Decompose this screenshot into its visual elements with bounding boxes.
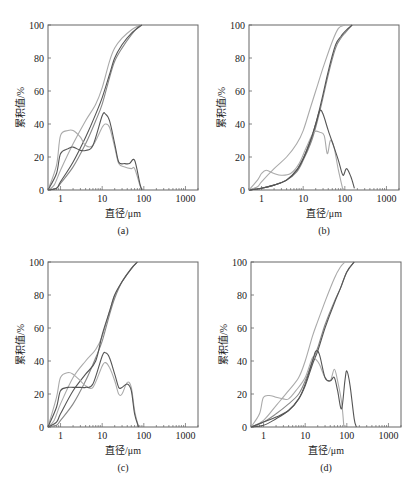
series-line-cumulative-dark bbox=[251, 262, 354, 427]
panel-caption: (a) bbox=[117, 225, 128, 237]
series-line-cumulative-mid bbox=[251, 262, 354, 427]
y-tick-label: 100 bbox=[29, 257, 44, 268]
y-tick-label: 60 bbox=[235, 86, 245, 97]
x-tick-label: 1 bbox=[58, 430, 63, 441]
y-tick-label: 40 bbox=[235, 119, 245, 130]
plot-frame bbox=[251, 262, 401, 427]
chart-panel-c: 0204060801001101001000直径/μm累积值/%(c) bbox=[0, 237, 207, 482]
chart-svg: 0204060801001101001000直径/μm累积值/%(a) bbox=[0, 0, 207, 245]
y-tick-label: 80 bbox=[237, 290, 247, 301]
series-line-frequency-light bbox=[251, 357, 344, 427]
y-tick-label: 0 bbox=[242, 422, 247, 433]
y-axis-title: 累积值/% bbox=[215, 87, 227, 128]
x-tick-label: 1 bbox=[259, 193, 264, 204]
y-tick-label: 100 bbox=[232, 257, 247, 268]
y-tick-label: 0 bbox=[39, 185, 44, 196]
x-tick-label: 10 bbox=[97, 193, 107, 204]
x-tick-label: 100 bbox=[136, 193, 151, 204]
x-tick-label: 1000 bbox=[378, 430, 398, 441]
chart-svg: 0204060801001101001000直径/μm累积值/%(b) bbox=[201, 0, 408, 245]
y-tick-label: 80 bbox=[34, 290, 44, 301]
y-tick-label: 80 bbox=[34, 53, 44, 64]
series-line-cumulative-light bbox=[249, 25, 345, 190]
x-axis-title: 直径/μm bbox=[306, 207, 342, 219]
y-tick-label: 60 bbox=[34, 323, 44, 334]
x-axis-title: 直径/μm bbox=[105, 207, 141, 219]
y-tick-label: 100 bbox=[230, 20, 245, 31]
chart-panel-a: 0204060801001101001000直径/μm累积值/%(a) bbox=[0, 0, 207, 245]
y-tick-label: 20 bbox=[34, 389, 44, 400]
chart-svg: 0204060801001101001000直径/μm累积值/%(d) bbox=[203, 237, 410, 482]
y-axis-title: 累积值/% bbox=[14, 324, 26, 365]
series-line-frequency-light bbox=[249, 131, 343, 190]
x-tick-label: 1000 bbox=[376, 193, 396, 204]
panel-caption: (b) bbox=[318, 225, 330, 237]
series-line-cumulative-dark bbox=[48, 25, 142, 190]
chart-panel-d: 0204060801001101001000直径/μm累积值/%(d) bbox=[203, 237, 410, 482]
chart-svg: 0204060801001101001000直径/μm累积值/%(c) bbox=[0, 237, 207, 482]
series-line-cumulative-light bbox=[48, 262, 137, 427]
y-tick-label: 20 bbox=[34, 152, 44, 163]
x-tick-label: 100 bbox=[337, 193, 352, 204]
series-line-cumulative-light bbox=[251, 262, 345, 427]
series-line-cumulative-light bbox=[48, 25, 140, 190]
plot-frame bbox=[249, 25, 399, 190]
x-tick-label: 1000 bbox=[175, 430, 195, 441]
y-tick-label: 20 bbox=[235, 152, 245, 163]
series-line-frequency-light bbox=[48, 362, 139, 427]
panel-caption: (d) bbox=[320, 462, 332, 474]
y-tick-label: 40 bbox=[34, 119, 44, 130]
chart-panel-b: 0204060801001101001000直径/μm累积值/%(b) bbox=[201, 0, 408, 245]
y-tick-label: 40 bbox=[237, 356, 247, 367]
x-tick-label: 100 bbox=[339, 430, 354, 441]
plot-frame bbox=[48, 262, 198, 427]
x-axis-title: 直径/μm bbox=[105, 444, 141, 456]
x-tick-label: 1000 bbox=[175, 193, 195, 204]
x-tick-label: 10 bbox=[298, 193, 308, 204]
y-tick-label: 0 bbox=[240, 185, 245, 196]
y-tick-label: 40 bbox=[34, 356, 44, 367]
x-axis-title: 直径/μm bbox=[308, 444, 344, 456]
panel-caption: (c) bbox=[117, 462, 128, 474]
x-tick-label: 10 bbox=[97, 430, 107, 441]
x-tick-label: 1 bbox=[261, 430, 266, 441]
y-axis-title: 累积值/% bbox=[14, 87, 26, 128]
y-tick-label: 80 bbox=[235, 53, 245, 64]
x-tick-label: 10 bbox=[300, 430, 310, 441]
y-tick-label: 0 bbox=[39, 422, 44, 433]
y-tick-label: 60 bbox=[237, 323, 247, 334]
series-line-cumulative-mid bbox=[249, 25, 352, 190]
y-tick-label: 100 bbox=[29, 20, 44, 31]
series-line-frequency-dark bbox=[251, 350, 356, 427]
y-tick-label: 20 bbox=[237, 389, 247, 400]
y-tick-label: 60 bbox=[34, 86, 44, 97]
y-axis-title: 累积值/% bbox=[217, 324, 229, 365]
x-tick-label: 100 bbox=[136, 430, 151, 441]
x-tick-label: 1 bbox=[58, 193, 63, 204]
